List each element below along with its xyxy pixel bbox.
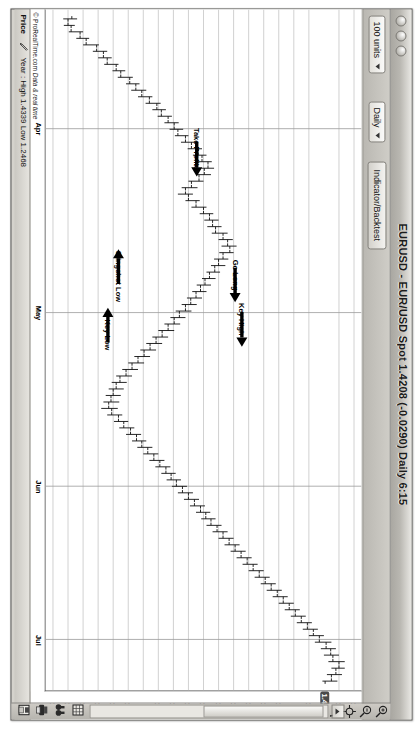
units-select-label: 100 units <box>371 21 381 58</box>
chart-annotation: Slingshot Low <box>113 250 122 301</box>
time-axis-tick: Jun <box>33 480 42 493</box>
chart-annotation: Take Profits <box>192 127 201 169</box>
print-icon[interactable] <box>32 703 49 716</box>
pencil-icon[interactable] <box>17 42 28 51</box>
binoculars-icon[interactable] <box>50 703 67 716</box>
chart-toolbar: 100 units Daily Indicator/Backtest <box>362 9 389 719</box>
copyright-italic-text: Data & real time <box>31 72 38 119</box>
status-bar: Price Year : High 1.4339 Low 1.2468 <box>14 9 30 719</box>
copyright-text: © ProRealTime.com <box>31 12 38 72</box>
chevron-down-icon <box>375 63 379 69</box>
price-plot[interactable]: Take ProfitsGo LongKey HighSlingshot Low… <box>44 9 361 691</box>
time-axis-tick: Apr <box>33 122 42 135</box>
chart-area: Take ProfitsGo LongKey HighSlingshot Low… <box>30 9 362 719</box>
status-year-stats: Year : High 1.4339 Low 1.2468 <box>18 57 27 167</box>
units-select[interactable]: 100 units <box>368 15 385 73</box>
chart-annotation: Go Long <box>230 259 239 290</box>
timeframe-select-label: Daily <box>371 107 381 127</box>
status-price-label: Price <box>18 14 27 34</box>
time-axis-tick: May <box>33 305 42 320</box>
save-icon[interactable] <box>14 703 31 716</box>
chevron-down-icon <box>375 132 379 138</box>
scroll-up-button[interactable] <box>331 704 344 718</box>
zoom-in-icon[interactable] <box>374 704 388 718</box>
scrollbar-thumb[interactable] <box>203 705 323 717</box>
scroll-up-icon <box>335 708 339 714</box>
chart-window: EURUSD - EUR/USD Spot 1.4208 (-0.0290) D… <box>10 8 412 720</box>
chart-tools-sidebar <box>11 702 390 719</box>
window-title-bar[interactable]: EURUSD - EUR/USD Spot 1.4208 (-0.0290) D… <box>389 9 411 719</box>
copyright-notice: © ProRealTime.com Data & real time <box>31 12 38 119</box>
zoom-out-icon[interactable] <box>358 704 372 718</box>
chart-annotation: Key Low <box>103 319 112 350</box>
vertical-scrollbar[interactable] <box>89 704 328 718</box>
page-title: EURUSD - EUR/USD Spot 1.4208 (-0.0290) D… <box>396 9 408 719</box>
ohlc-chart <box>45 9 361 690</box>
time-axis-tick: Jul <box>33 634 42 645</box>
rotated-screenshot-frame: EURUSD - EUR/USD Spot 1.4208 (-0.0290) D… <box>0 0 416 731</box>
indicator-backtest-button[interactable]: Indicator/Backtest <box>367 161 386 249</box>
chart-annotation: Key High <box>237 303 246 336</box>
timeframe-select[interactable]: Daily <box>368 101 385 142</box>
grid-icon[interactable] <box>68 703 85 716</box>
